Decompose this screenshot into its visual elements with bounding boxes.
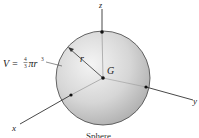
x-axis-label: x (11, 123, 16, 133)
diagram-caption: Sphere (86, 131, 111, 138)
formula-suffix: πr (29, 58, 38, 69)
x-axis-line (20, 95, 71, 124)
y-axis-line (146, 87, 193, 100)
volume-formula: V = 4 3 πr 3 (3, 56, 44, 69)
center-label: G (107, 65, 114, 76)
y-axis-label: y (192, 96, 197, 106)
formula-prefix: V = (3, 58, 18, 69)
z-axis-point (100, 30, 104, 34)
radius-label: r (80, 53, 84, 64)
formula-numerator: 4 (24, 56, 27, 62)
x-axis-point (69, 93, 72, 96)
y-axis-point (144, 85, 147, 88)
center-point-g (101, 76, 105, 80)
sphere-diagram: z y x G r V = 4 3 πr 3 Sphere (0, 0, 199, 138)
z-axis-label: z (98, 1, 103, 10)
formula-exponent: 3 (41, 56, 44, 62)
formula-denominator: 3 (24, 63, 27, 69)
